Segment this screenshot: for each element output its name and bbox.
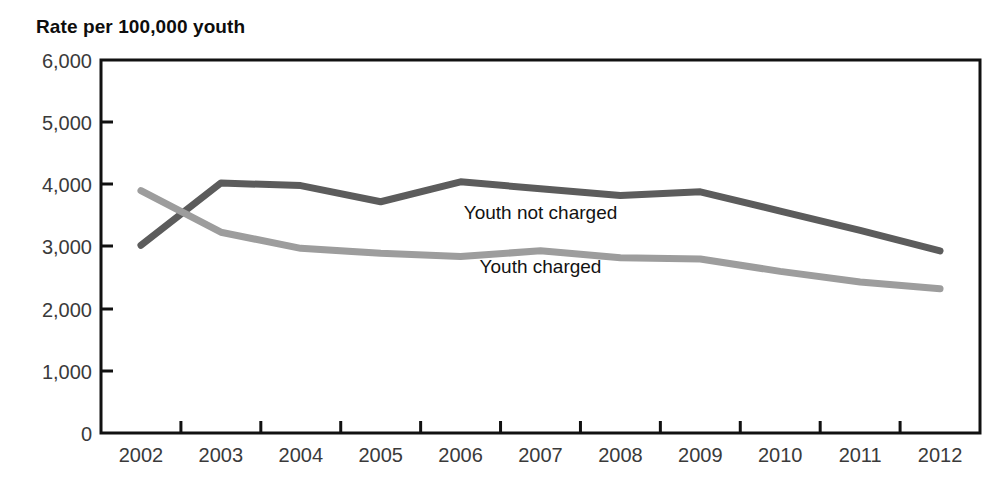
y-tick-label-4000: 4,000 — [42, 174, 92, 196]
y-axis-ticks — [101, 122, 113, 371]
x-tick-label-2002: 2002 — [119, 444, 164, 466]
x-tick-label-2012: 2012 — [918, 444, 963, 466]
x-tick-label-2011: 2011 — [839, 444, 882, 466]
x-tick-label-2008: 2008 — [598, 444, 643, 466]
x-tick-label-2005: 2005 — [358, 444, 403, 466]
annotation-youth-not-charged: Youth not charged — [464, 202, 618, 223]
series-annotations: Youth not chargedYouth charged — [464, 202, 618, 277]
x-tick-label-2006: 2006 — [438, 444, 483, 466]
plot-frame — [101, 60, 980, 433]
x-tick-label-2010: 2010 — [758, 444, 803, 466]
y-tick-label-2000: 2,000 — [42, 299, 92, 321]
y-tick-label-3000: 3,000 — [42, 236, 92, 258]
x-axis: 2002200320042005200620072008200920102011… — [119, 421, 963, 466]
chart-figure: Rate per 100,000 youth 6,000 5,000 4,000… — [0, 0, 1007, 482]
x-tick-label-2004: 2004 — [279, 444, 324, 466]
y-tick-label-1000: 1,000 — [42, 361, 92, 383]
y-tick-label-6000: 6,000 — [42, 50, 92, 72]
line-chart-plot: 6,000 5,000 4,000 3,000 2,000 1,000 0 20… — [0, 0, 1007, 482]
y-tick-label-0: 0 — [81, 423, 92, 445]
x-tick-label-2009: 2009 — [678, 444, 723, 466]
x-tick-label-2007: 2007 — [518, 444, 563, 466]
annotation-youth-charged: Youth charged — [480, 256, 602, 277]
x-tick-label-2003: 2003 — [199, 444, 244, 466]
y-axis-tick-labels: 6,000 5,000 4,000 3,000 2,000 1,000 0 — [42, 50, 92, 445]
y-tick-label-5000: 5,000 — [42, 112, 92, 134]
